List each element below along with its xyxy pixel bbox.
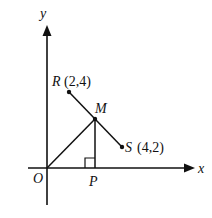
point-p-label: P bbox=[88, 174, 98, 189]
point-s-label: S bbox=[125, 140, 132, 155]
segment-om bbox=[47, 119, 95, 168]
coordinate-diagram: y x O R (2,4) M S (4,2) P bbox=[0, 0, 212, 218]
point-m bbox=[93, 117, 97, 121]
y-axis-arrow-icon bbox=[43, 25, 52, 36]
origin-label: O bbox=[33, 171, 43, 186]
point-s-coords: (4,2) bbox=[137, 140, 164, 156]
point-r bbox=[67, 90, 71, 94]
point-m-label: M bbox=[94, 101, 108, 116]
x-axis-arrow-icon bbox=[184, 164, 195, 173]
point-s bbox=[120, 145, 124, 149]
point-r-label: R bbox=[51, 74, 61, 89]
right-angle-marker bbox=[85, 158, 95, 168]
x-axis-label: x bbox=[197, 161, 205, 176]
y-axis-label: y bbox=[38, 6, 47, 21]
point-r-coords: (2,4) bbox=[64, 74, 91, 90]
